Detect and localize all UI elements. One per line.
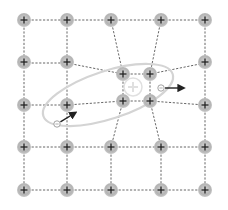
cooper-pair-diagram: [0, 0, 228, 210]
ion: [17, 98, 31, 112]
bond-line: [150, 101, 205, 105]
bond-line: [67, 101, 123, 105]
ion: [198, 140, 212, 154]
lattice-diagram-canvas: [0, 0, 228, 210]
velocity-arrow-icon: [60, 113, 75, 122]
ion: [116, 94, 130, 108]
ion: [60, 183, 74, 197]
ion: [60, 13, 74, 27]
ion: [17, 140, 31, 154]
ion: [154, 13, 168, 27]
bond-line: [111, 101, 123, 147]
ion: [143, 67, 157, 81]
ion: [143, 94, 157, 108]
ion: [154, 140, 168, 154]
ion: [17, 183, 31, 197]
ion: [60, 98, 74, 112]
ion: [60, 55, 74, 69]
ion: [198, 55, 212, 69]
ion: [60, 140, 74, 154]
lattice-bonds: [24, 20, 205, 190]
ion: [154, 183, 168, 197]
ion: [198, 98, 212, 112]
ion: [198, 13, 212, 27]
bond-line: [150, 101, 161, 147]
ion: [17, 13, 31, 27]
ion: [104, 183, 118, 197]
ion: [104, 13, 118, 27]
positive-charge-region: [124, 78, 142, 96]
ion: [17, 55, 31, 69]
ion: [198, 183, 212, 197]
ion: [104, 140, 118, 154]
plus-icon: [124, 78, 142, 96]
